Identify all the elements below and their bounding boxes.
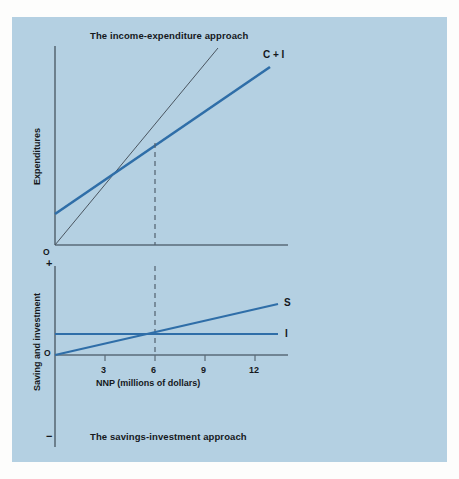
forty-five-degree-line xyxy=(55,48,218,245)
c-plus-i-line xyxy=(55,67,270,214)
top-chart-origin-label: O xyxy=(43,247,50,257)
bottom-xtick-label-9: 9 xyxy=(201,365,206,375)
chart-panel: The income-expenditure approach Expendit… xyxy=(12,17,447,462)
bottom-chart-title: The savings-investment approach xyxy=(90,431,247,442)
bottom-chart-y-axis-label: Saving and investment xyxy=(32,293,42,391)
bottom-chart-x-axis-label: NNP (millions of dollars) xyxy=(96,378,200,388)
figure-root: The income-expenditure approach Expendit… xyxy=(0,0,459,479)
bottom-chart-plus-label: + xyxy=(46,257,52,269)
savings-line-label: S xyxy=(284,297,291,308)
bottom-chart-origin-label: O xyxy=(44,348,51,358)
savings-line xyxy=(55,304,278,355)
bottom-xtick-label-12: 12 xyxy=(249,365,259,375)
c-plus-i-label: C + I xyxy=(263,49,284,60)
chart-vector-layer xyxy=(12,17,447,462)
top-chart-y-axis-label: Expenditures xyxy=(32,128,42,185)
bottom-xtick-label-6: 6 xyxy=(151,365,156,375)
top-chart-title: The income-expenditure approach xyxy=(90,30,248,41)
investment-line-label: I xyxy=(285,328,288,339)
bottom-xtick-label-3: 3 xyxy=(101,365,106,375)
bottom-chart-minus-label: − xyxy=(46,430,52,442)
